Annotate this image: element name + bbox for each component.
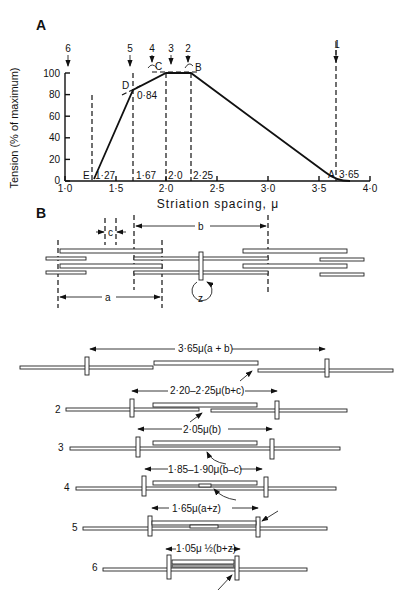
svg-text:1·85–1·90μ(b–c): 1·85–1·90μ(b–c)	[168, 464, 242, 475]
stage-markers: 6 5 4 3 2 1	[65, 39, 340, 66]
svg-text:3·65μ(a + b): 3·65μ(a + b)	[178, 343, 233, 354]
point-e-label: E	[83, 170, 90, 181]
svg-text:20: 20	[49, 154, 61, 165]
bracket-b	[185, 64, 193, 68]
svg-text:4·0: 4·0	[363, 183, 378, 194]
panel-a: A Tension (% of maximum) 0 20 40 60 80 1…	[8, 17, 378, 211]
point-c-value: 2·0	[168, 170, 183, 181]
svg-text:40: 40	[49, 132, 61, 143]
y-axis-label: Tension (% of maximum)	[8, 67, 20, 188]
svg-text:3: 3	[58, 442, 64, 453]
svg-text:2·5: 2·5	[210, 183, 225, 194]
stage-3: 2·05μ(b) 3	[58, 424, 340, 464]
svg-text:3·0: 3·0	[261, 183, 276, 194]
point-d-label: D	[122, 80, 129, 91]
point-b-label: B	[195, 62, 202, 73]
svg-text:2: 2	[55, 404, 61, 415]
svg-text:2·20–2·25μ(b+c): 2·20–2·25μ(b+c)	[170, 385, 244, 396]
dim-a: a	[105, 292, 111, 303]
svg-text:1·0: 1·0	[58, 183, 73, 194]
point-a-value: 3·65	[339, 169, 359, 180]
svg-text:5: 5	[72, 522, 78, 533]
stage-2: 2·20–2·25μ(b+c) 2	[55, 385, 347, 422]
x-axis-label: Striation spacing, μ	[157, 197, 279, 211]
svg-text:1: 1	[334, 39, 340, 50]
panel-a-label: A	[36, 17, 46, 33]
dim-b: b	[198, 221, 204, 232]
stage-4: 1·85–1·90μ(b–c) 4	[64, 464, 336, 500]
panel-b: B c b a z	[36, 205, 364, 308]
y-ticks: 0 20 40 60 80 100	[43, 68, 70, 186]
svg-text:2: 2	[185, 43, 191, 54]
stages: 3·65μ(a + b) 2·20–2·25μ(b+c) 2 2·05μ(b)	[20, 343, 393, 590]
svg-text:80: 80	[49, 89, 61, 100]
figure: A Tension (% of maximum) 0 20 40 60 80 1…	[0, 0, 413, 613]
point-b-value: 2·25	[193, 170, 213, 181]
svg-text:2·05μ(b): 2·05μ(b)	[183, 424, 221, 435]
d-x-value: 1·67	[136, 170, 156, 181]
svg-text:3: 3	[168, 43, 174, 54]
svg-text:100: 100	[43, 68, 60, 79]
svg-text:4: 4	[64, 482, 70, 493]
stage-1: 3·65μ(a + b)	[20, 343, 393, 381]
svg-text:1·65μ(a+z): 1·65μ(a+z)	[172, 503, 221, 514]
dim-z: z	[198, 293, 203, 304]
stage-6: 1·05μ ½(b+z) 6	[92, 543, 307, 590]
svg-text:6: 6	[92, 562, 98, 573]
panel-b-label: B	[36, 205, 46, 221]
svg-text:2·0: 2·0	[159, 183, 174, 194]
svg-text:5: 5	[127, 43, 133, 54]
dim-c: c	[108, 227, 113, 238]
svg-text:4: 4	[149, 43, 155, 54]
svg-text:1·05μ ½(b+z): 1·05μ ½(b+z)	[176, 543, 236, 554]
point-a-label: A	[328, 169, 335, 180]
point-d-value: 0·84	[137, 90, 157, 101]
svg-text:6: 6	[65, 43, 71, 54]
z-line	[199, 252, 203, 280]
svg-text:60: 60	[49, 111, 61, 122]
stage-5: 1·65μ(a+z) 5	[72, 503, 327, 537]
svg-text:3·5: 3·5	[312, 183, 327, 194]
point-e-value: 1·27	[95, 170, 115, 181]
svg-text:1·5: 1·5	[109, 183, 124, 194]
